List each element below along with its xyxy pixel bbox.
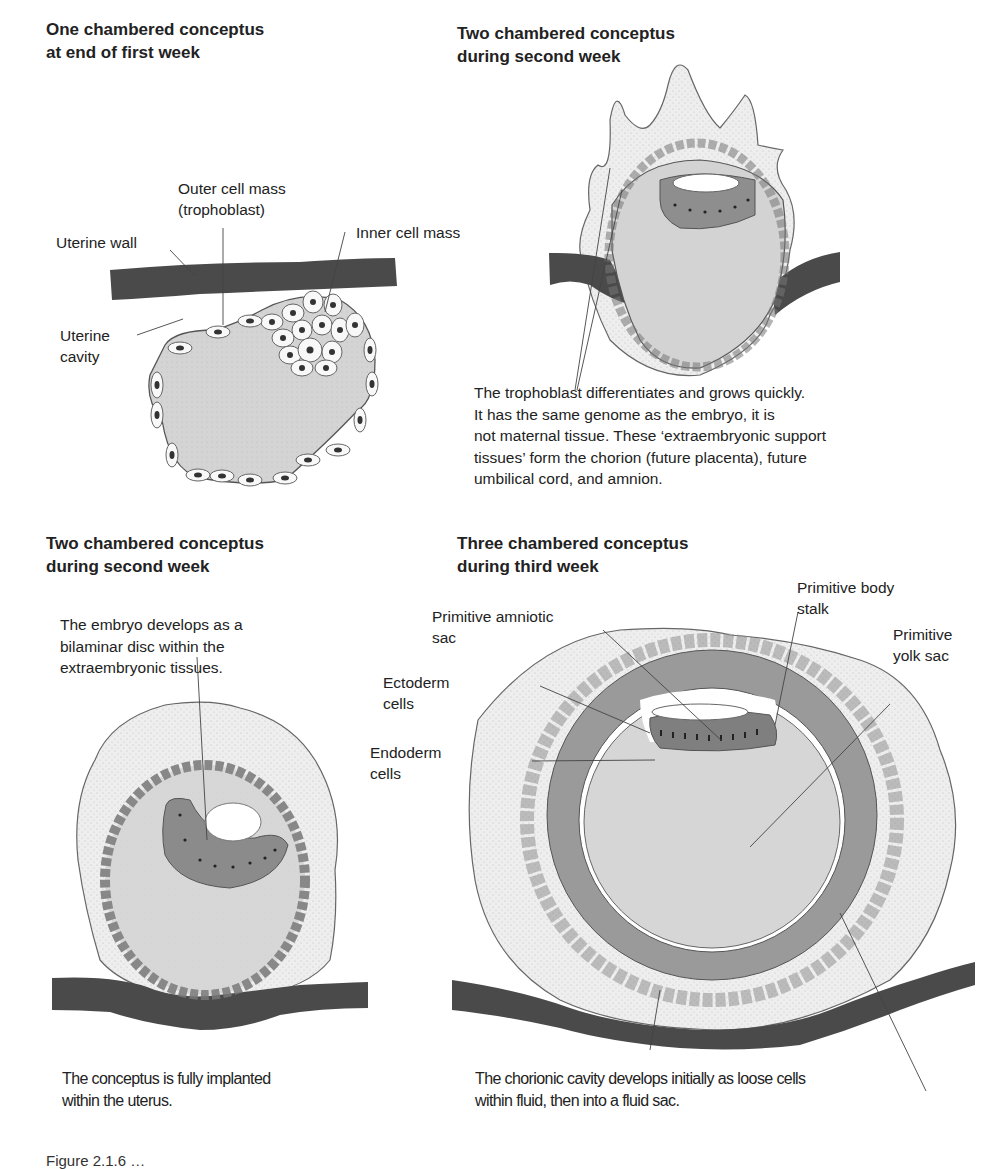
label-primitive-yolk-sac: Primitive yolk sac bbox=[893, 624, 952, 666]
label-line: cells bbox=[383, 693, 449, 714]
amniotic-space bbox=[673, 174, 739, 192]
title-line: during second week bbox=[46, 555, 264, 578]
panel4-title: Three chambered conceptus during third w… bbox=[457, 532, 688, 578]
title-line: Two chambered conceptus bbox=[457, 22, 675, 45]
three-chambered-conceptus-drawing bbox=[452, 612, 975, 1091]
title-line: Three chambered conceptus bbox=[457, 532, 688, 555]
label-line: Primitive body bbox=[797, 577, 894, 598]
label-primitive-amniotic-sac: Primitive amniotic sac bbox=[432, 606, 553, 648]
label-line: cells bbox=[370, 763, 442, 784]
panel1-title: One chambered conceptus at end of first … bbox=[46, 18, 264, 64]
label-line: Primitive amniotic bbox=[432, 606, 553, 627]
panel2-title: Two chambered conceptus during second we… bbox=[457, 22, 675, 68]
label-line: Primitive bbox=[893, 624, 952, 645]
label-line: yolk sac bbox=[893, 645, 952, 666]
trophoblast-description: The trophoblast differentiates and grows… bbox=[474, 382, 994, 490]
title-line: during third week bbox=[457, 555, 688, 578]
label-uterine-cavity: Uterine cavity bbox=[60, 325, 110, 367]
footer-line: The conceptus is fully implanted bbox=[62, 1068, 422, 1090]
label-ectoderm-cells: Ectoderm cells bbox=[383, 672, 449, 714]
description-line: extraembryonic tissues. bbox=[60, 657, 380, 679]
description-line: tissues’ form the chorion (future placen… bbox=[474, 447, 994, 469]
title-line: Two chambered conceptus bbox=[46, 532, 264, 555]
primitive-amniotic-sac bbox=[652, 704, 748, 720]
label-outer-cell-mass: Outer cell mass (trophoblast) bbox=[178, 178, 286, 220]
label-inner-cell-mass: Inner cell mass bbox=[356, 222, 460, 243]
label-line: (trophoblast) bbox=[178, 199, 286, 220]
label-line: cavity bbox=[60, 346, 110, 367]
label-primitive-body-stalk: Primitive body stalk bbox=[797, 577, 894, 619]
title-line: during second week bbox=[457, 45, 675, 68]
label-line: sac bbox=[432, 627, 553, 648]
bilaminar-description: The embryo develops as a bilaminar disc … bbox=[60, 614, 380, 679]
figure-caption: Figure 2.1.6 … bbox=[46, 1152, 145, 1169]
description-line: not maternal tissue. These ‘extraembryon… bbox=[474, 425, 994, 447]
amniotic-space bbox=[205, 803, 261, 841]
panel3-title: Two chambered conceptus during second we… bbox=[46, 532, 264, 578]
title-line: One chambered conceptus bbox=[46, 18, 264, 41]
two-chambered-conceptus-drawing-top bbox=[549, 65, 840, 390]
one-chambered-conceptus-drawing bbox=[110, 228, 397, 486]
label-line: Uterine bbox=[60, 325, 110, 346]
footer-line: The chorionic cavity develops initially … bbox=[475, 1068, 995, 1090]
description-line: The trophoblast differentiates and grows… bbox=[474, 382, 994, 404]
title-line: at end of first week bbox=[46, 41, 264, 64]
description-line: It has the same genome as the embryo, it… bbox=[474, 404, 994, 426]
footer-line: within fluid, then into a fluid sac. bbox=[475, 1090, 995, 1112]
description-line: bilaminar disc within the bbox=[60, 636, 380, 658]
label-line: Ectoderm bbox=[383, 672, 449, 693]
label-line: stalk bbox=[797, 598, 894, 619]
description-line: umbilical cord, and amnion. bbox=[474, 468, 994, 490]
implantation-note: The conceptus is fully implanted within … bbox=[62, 1068, 422, 1112]
label-line: Outer cell mass bbox=[178, 178, 286, 199]
label-endoderm-cells: Endoderm cells bbox=[370, 742, 442, 784]
chorionic-cavity-note: The chorionic cavity develops initially … bbox=[475, 1068, 995, 1112]
label-line: Endoderm bbox=[370, 742, 442, 763]
uterine-wall-band bbox=[110, 258, 397, 300]
two-chambered-conceptus-drawing-bottom bbox=[52, 657, 368, 1030]
footer-line: within the uterus. bbox=[62, 1090, 422, 1112]
label-uterine-wall: Uterine wall bbox=[56, 232, 137, 253]
description-line: The embryo develops as a bbox=[60, 614, 380, 636]
